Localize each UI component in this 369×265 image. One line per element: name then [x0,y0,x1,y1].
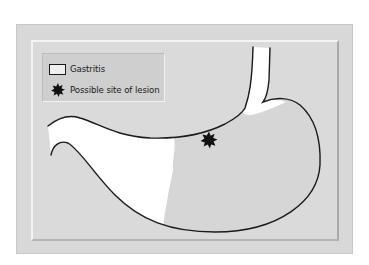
white-square-swatch-icon [49,64,66,75]
gastritis-region [40,100,176,240]
legend-label: Gastritis [70,64,105,74]
black-starburst-icon [49,83,66,97]
legend-item-gastritis: Gastritis [49,62,105,76]
legend-item-lesion: Possible site of lesion [49,83,160,97]
legend: Gastritis Possible site of lesion [42,53,165,102]
legend-label: Possible site of lesion [70,85,160,95]
stomach-diagram [0,0,369,265]
